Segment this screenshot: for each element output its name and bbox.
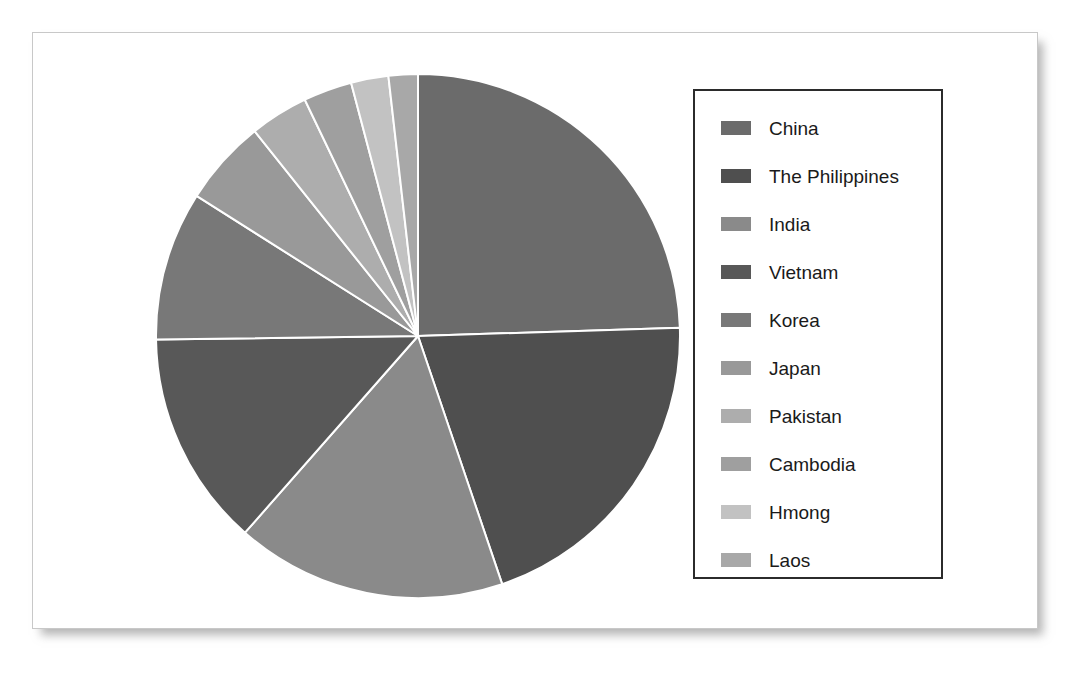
- legend-item[interactable]: Laos: [721, 547, 810, 573]
- chart-frame: ChinaThe PhilippinesIndiaVietnamKoreaJap…: [32, 32, 1038, 629]
- legend-item-label: Hmong: [769, 503, 830, 522]
- legend-item[interactable]: Pakistan: [721, 403, 842, 429]
- figure-root: ChinaThe PhilippinesIndiaVietnamKoreaJap…: [0, 0, 1076, 679]
- legend-item-label: The Philippines: [769, 167, 899, 186]
- legend-item[interactable]: Japan: [721, 355, 821, 381]
- legend-item[interactable]: China: [721, 115, 819, 141]
- legend-item[interactable]: India: [721, 211, 810, 237]
- legend-item-label: Laos: [769, 551, 810, 570]
- legend-swatch-icon: [721, 361, 751, 375]
- legend-item-label: Korea: [769, 311, 820, 330]
- legend-item-label: India: [769, 215, 810, 234]
- legend-item-list: ChinaThe PhilippinesIndiaVietnamKoreaJap…: [695, 105, 941, 563]
- legend-item[interactable]: Vietnam: [721, 259, 838, 285]
- pie-chart-area: [124, 33, 684, 630]
- legend-item[interactable]: Korea: [721, 307, 820, 333]
- legend-swatch-icon: [721, 121, 751, 135]
- legend-swatch-icon: [721, 505, 751, 519]
- legend-item[interactable]: Hmong: [721, 499, 830, 525]
- legend-swatch-icon: [721, 409, 751, 423]
- pie-slice-group: [156, 74, 680, 598]
- legend-item-label: Cambodia: [769, 455, 856, 474]
- legend-swatch-icon: [721, 553, 751, 567]
- legend-swatch-icon: [721, 217, 751, 231]
- legend-item[interactable]: The Philippines: [721, 163, 899, 189]
- legend-swatch-icon: [721, 457, 751, 471]
- legend-swatch-icon: [721, 313, 751, 327]
- legend-item-label: China: [769, 119, 819, 138]
- legend-swatch-icon: [721, 169, 751, 183]
- pie-slice: [418, 74, 680, 336]
- legend-item-label: Japan: [769, 359, 821, 378]
- legend-item-label: Pakistan: [769, 407, 842, 426]
- pie-chart: [124, 33, 684, 630]
- legend-item-label: Vietnam: [769, 263, 838, 282]
- legend-item[interactable]: Cambodia: [721, 451, 856, 477]
- legend-swatch-icon: [721, 265, 751, 279]
- legend: ChinaThe PhilippinesIndiaVietnamKoreaJap…: [693, 89, 943, 579]
